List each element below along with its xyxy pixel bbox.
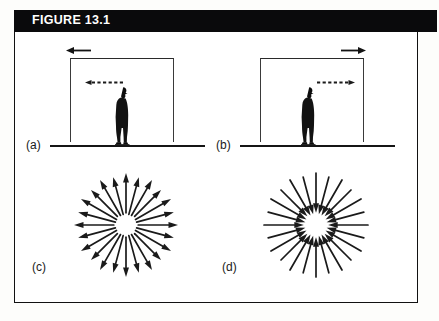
acceleration-arrow-right-icon — [340, 45, 366, 56]
radial-field-outward — [66, 168, 186, 286]
figure-root: FIGURE 13.1 (a) — [0, 0, 439, 321]
panel-label-d: (d) — [222, 260, 237, 274]
light-beam-dashed-right-icon — [316, 78, 356, 87]
man-silhouette-b — [298, 86, 320, 146]
figure-number-label: FIGURE 13.1 — [32, 13, 110, 27]
panel-d: (d) — [212, 168, 402, 288]
panel-label-b: (b) — [216, 138, 231, 152]
panel-a: (a) — [22, 42, 212, 162]
panel-label-c: (c) — [32, 260, 46, 274]
man-silhouette-a — [112, 86, 134, 146]
acceleration-arrow-left-icon — [66, 45, 92, 56]
panel-c: (c) — [22, 168, 212, 288]
radial-field-inward — [256, 168, 376, 286]
ground-line-b — [240, 145, 395, 147]
panel-label-a: (a) — [26, 138, 41, 152]
panel-b: (b) — [212, 42, 402, 162]
figure-header-bar: FIGURE 13.1 — [14, 10, 437, 32]
ground-line-a — [50, 145, 205, 147]
